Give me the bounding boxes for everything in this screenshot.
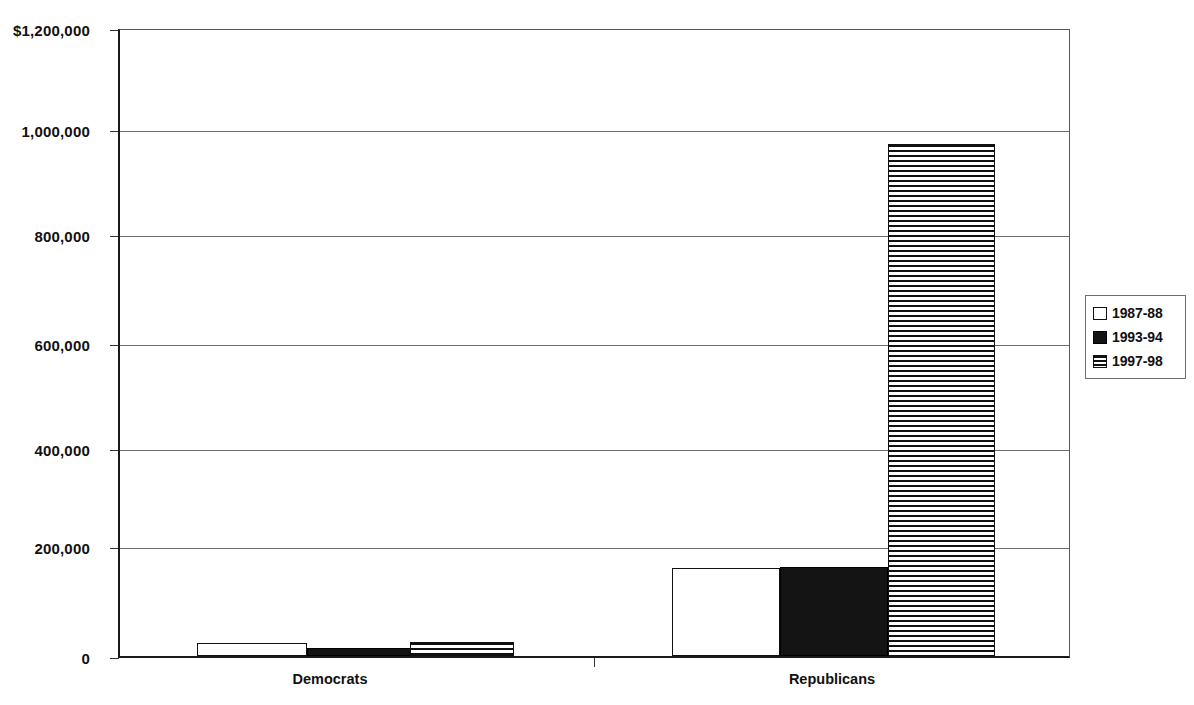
gridline-1000000 bbox=[120, 131, 1069, 132]
y-tick-label-600000: 600,000 bbox=[34, 337, 90, 354]
legend-item-1997-98: 1997-98 bbox=[1093, 349, 1185, 373]
bar-republicans-1987-88 bbox=[672, 568, 780, 656]
y-tick-label-200000: 200,000 bbox=[34, 540, 90, 557]
legend-label-1987-88: 1987-88 bbox=[1112, 305, 1163, 321]
legend-label-1997-98: 1997-98 bbox=[1112, 353, 1163, 369]
y-tick-label-1000000: 1,000,000 bbox=[21, 123, 90, 140]
y-tick-label-400000: 400,000 bbox=[34, 442, 90, 459]
bar-republicans-1993-94 bbox=[780, 567, 888, 656]
y-tick-mark-0 bbox=[110, 658, 119, 659]
category-tick-separator bbox=[594, 658, 595, 667]
bar-democrats-1997-98 bbox=[410, 642, 514, 656]
legend-swatch-striped-icon bbox=[1093, 355, 1107, 368]
legend-swatch-white-icon bbox=[1093, 307, 1107, 320]
bar-chart: $1,200,000 1,000,000 800,000 600,000 400… bbox=[0, 0, 1194, 705]
legend: 1987-88 1993-94 1997-98 bbox=[1085, 295, 1186, 379]
y-tick-label-800000: 800,000 bbox=[34, 228, 90, 245]
legend-item-1987-88: 1987-88 bbox=[1093, 301, 1185, 325]
bar-democrats-1993-94 bbox=[307, 648, 415, 656]
category-label-republicans: Republicans bbox=[742, 671, 922, 687]
legend-swatch-black-icon bbox=[1093, 331, 1107, 344]
bar-democrats-1987-88 bbox=[197, 643, 307, 656]
y-tick-label-1200000: $1,200,000 bbox=[13, 22, 90, 39]
plot-area bbox=[118, 29, 1070, 658]
y-tick-label-0: 0 bbox=[81, 650, 90, 667]
bar-republicans-1997-98 bbox=[888, 144, 995, 656]
category-label-democrats: Democrats bbox=[240, 671, 420, 687]
legend-label-1993-94: 1993-94 bbox=[1112, 329, 1163, 345]
legend-item-1993-94: 1993-94 bbox=[1093, 325, 1185, 349]
